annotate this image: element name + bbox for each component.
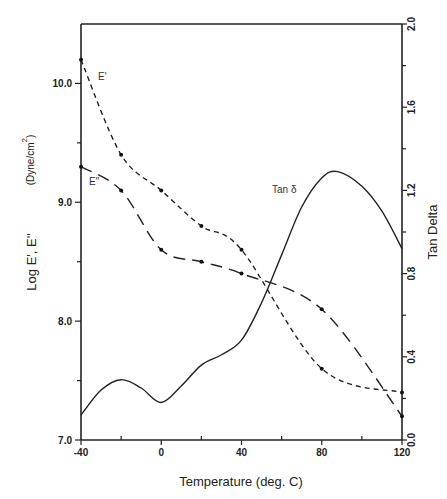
- y2-tick-label: 1.6: [406, 100, 417, 114]
- series-e-double-prime-line: [81, 167, 402, 417]
- data-point-marker: [240, 272, 244, 276]
- x-tick-label: 40: [236, 447, 248, 458]
- x-axis-label: Temperature (deg. C): [179, 474, 303, 489]
- y2-axis-ticks: 0.00.40.81.21.62.0: [402, 17, 417, 447]
- y-axis-units: (Dyne/cm2): [20, 135, 36, 186]
- data-point-marker: [159, 188, 163, 192]
- data-point-marker: [400, 414, 404, 418]
- y-axis-ticks: 7.08.09.010.0: [53, 78, 81, 446]
- y-tick-label: 7.0: [58, 435, 72, 446]
- data-point-marker: [240, 248, 244, 252]
- data-point-marker: [159, 248, 163, 252]
- y-axis-label: Log E', E'': [24, 233, 39, 290]
- y2-tick-label-group: 2.0: [406, 17, 417, 31]
- x-tick-label: 0: [158, 447, 164, 458]
- y2-tick-label: 0.0: [406, 433, 417, 447]
- data-point-marker: [199, 260, 203, 264]
- series-e-prime-line: [81, 60, 402, 393]
- data-point-marker: [400, 390, 404, 394]
- plot-frame: [81, 24, 402, 440]
- y-tick-label: 8.0: [58, 316, 72, 327]
- data-point-marker: [119, 188, 123, 192]
- data-point-marker: [79, 165, 83, 169]
- y2-tick-label-group: 0.0: [406, 433, 417, 447]
- y2-axis-label: Tan Delta: [425, 204, 440, 260]
- x-tick-label: -40: [74, 447, 89, 458]
- series-lines: [79, 58, 404, 419]
- x-tick-label: 120: [394, 447, 411, 458]
- y2-tick-label-group: 1.6: [406, 100, 417, 114]
- data-point-marker: [199, 224, 203, 228]
- y2-tick-label: 0.4: [406, 349, 417, 363]
- y2-tick-label-group: 0.4: [406, 349, 417, 363]
- chart: -4004080120 7.08.09.010.0 0.00.40.81.21.…: [0, 0, 447, 499]
- x-tick-label: 80: [316, 447, 328, 458]
- y2-tick-label-group: 1.2: [406, 183, 417, 197]
- data-point-marker: [119, 153, 123, 157]
- y2-tick-label: 0.8: [406, 266, 417, 280]
- series-label-e-double-prime: E": [89, 176, 100, 187]
- y2-tick-label: 2.0: [406, 17, 417, 31]
- y-tick-label: 10.0: [53, 78, 73, 89]
- series-tan-delta-line: [81, 171, 402, 415]
- data-point-marker: [320, 307, 324, 311]
- y-tick-label: 9.0: [58, 197, 72, 208]
- y2-tick-label-group: 0.8: [406, 266, 417, 280]
- series-label-tan-delta: Tan δ: [272, 184, 297, 195]
- series-label-e-prime: E': [98, 71, 107, 82]
- data-point-marker: [320, 367, 324, 371]
- data-point-marker: [79, 58, 83, 62]
- y2-tick-label: 1.2: [406, 183, 417, 197]
